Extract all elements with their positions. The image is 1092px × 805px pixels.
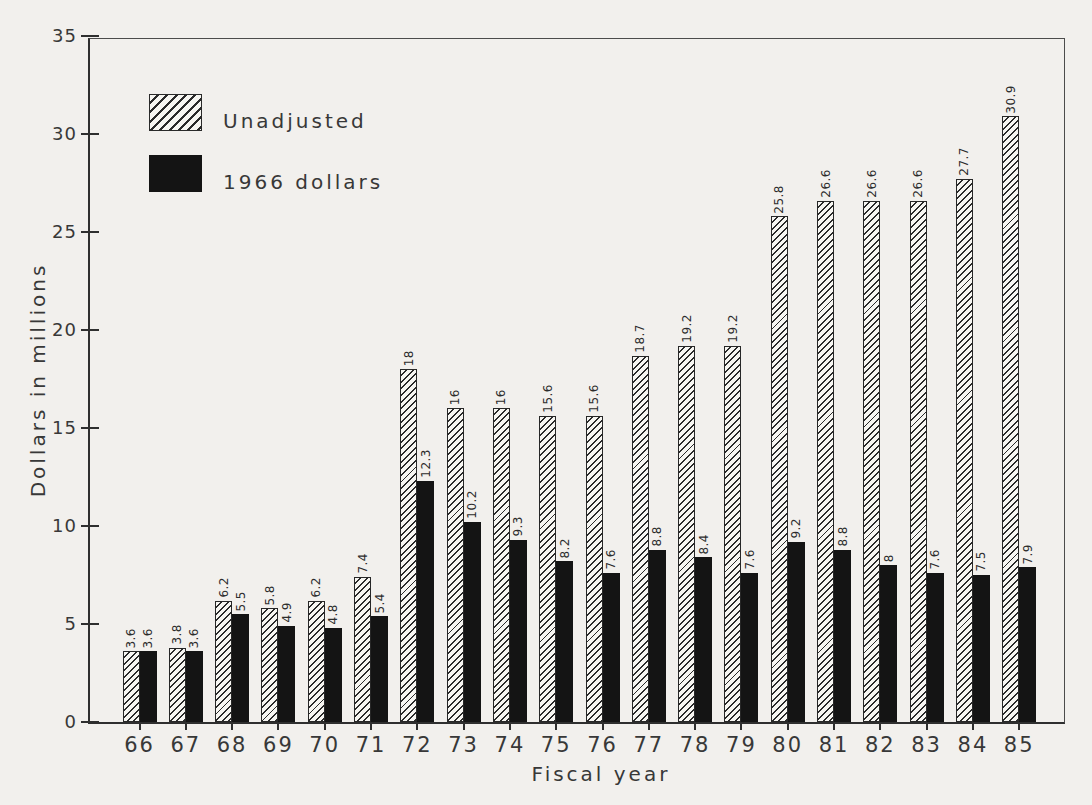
x-tick-label-78: 78	[680, 733, 711, 757]
x-tick-label-82: 82	[865, 733, 896, 757]
x-tick-77	[648, 722, 650, 730]
x-tick-72	[416, 722, 418, 730]
y-tick-label-30: 30	[52, 124, 77, 145]
x-tick-67	[185, 722, 187, 730]
legend-swatch-hatched-icon	[149, 94, 202, 131]
y-tick-label-0: 0	[65, 712, 77, 733]
x-tick-69	[277, 722, 279, 730]
y-tick-label-35: 35	[52, 26, 77, 47]
x-tick-79	[740, 722, 742, 730]
x-tick-71	[370, 722, 372, 730]
y-tick-label-5: 5	[65, 614, 77, 635]
x-tick-label-73: 73	[448, 733, 479, 757]
x-tick-label-83: 83	[911, 733, 942, 757]
legend-label-1966-dollars: 1966 dollars	[223, 170, 383, 194]
legend-label-unadjusted: Unadjusted	[223, 109, 367, 133]
x-tick-label-74: 74	[495, 733, 526, 757]
x-tick-80	[787, 722, 789, 730]
x-tick-label-84: 84	[958, 733, 989, 757]
x-tick-label-81: 81	[819, 733, 850, 757]
legend: Unadjusted 1966 dollars	[149, 94, 383, 192]
x-tick-73	[463, 722, 465, 730]
x-tick-label-76: 76	[587, 733, 618, 757]
x-tick-68	[231, 722, 233, 730]
x-tick-label-66: 66	[124, 733, 155, 757]
x-tick-81	[833, 722, 835, 730]
x-tick-66	[139, 722, 141, 730]
x-tick-label-70: 70	[309, 733, 340, 757]
x-tick-label-71: 71	[356, 733, 387, 757]
x-tick-74	[509, 722, 511, 730]
plot-area: 05101520253035 3.63.63.83.66.25.55.84.96…	[88, 38, 1065, 724]
legend-item-unadjusted: Unadjusted	[149, 94, 383, 131]
x-tick-label-67: 67	[170, 733, 201, 757]
x-tick-label-69: 69	[263, 733, 294, 757]
x-tick-label-68: 68	[217, 733, 248, 757]
scanned-bar-chart-page: 05101520253035 3.63.63.83.66.25.55.84.96…	[0, 0, 1092, 805]
y-axis-title: Dollars in millions	[26, 263, 50, 498]
x-tick-82	[879, 722, 881, 730]
y-tick-label-15: 15	[52, 418, 77, 439]
x-tick-label-77: 77	[633, 733, 664, 757]
x-tick-75	[555, 722, 557, 730]
x-tick-label-72: 72	[402, 733, 433, 757]
x-tick-83	[926, 722, 928, 730]
x-tick-label-79: 79	[726, 733, 757, 757]
y-tick-label-20: 20	[52, 320, 77, 341]
y-tick-35	[81, 35, 99, 37]
legend-swatch-solid-icon	[149, 155, 202, 192]
x-tick-70	[324, 722, 326, 730]
x-tick-84	[972, 722, 974, 730]
x-tick-label-85: 85	[1004, 733, 1035, 757]
legend-item-1966-dollars: 1966 dollars	[149, 155, 383, 192]
x-tick-label-80: 80	[772, 733, 803, 757]
y-tick-label-10: 10	[52, 516, 77, 537]
y-tick-label-25: 25	[52, 222, 77, 243]
x-tick-label-75: 75	[541, 733, 572, 757]
x-tick-85	[1018, 722, 1020, 730]
x-tick-76	[602, 722, 604, 730]
x-tick-78	[694, 722, 696, 730]
x-axis-title: Fiscal year	[532, 762, 671, 786]
